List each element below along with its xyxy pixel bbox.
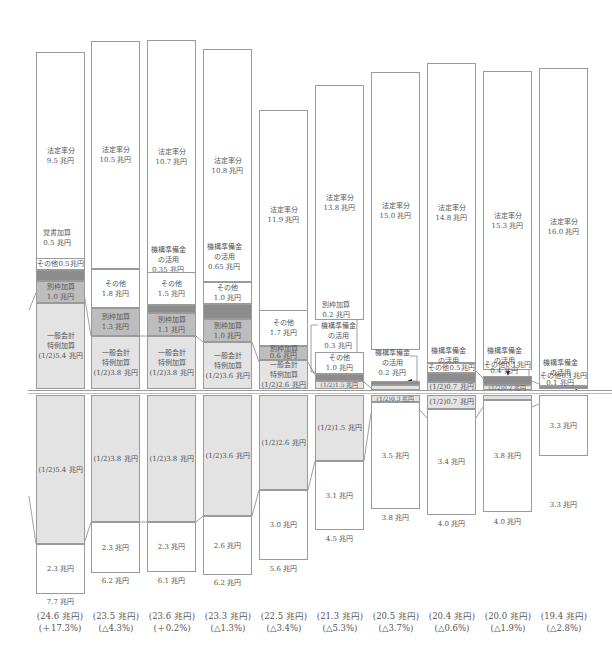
value: (1/2)3.8 兆円: [93, 454, 137, 464]
value: (1/2)3.6 兆円: [205, 371, 249, 381]
value: 3.3 兆円: [550, 421, 577, 431]
value: (1/2)0.3 兆円: [377, 396, 415, 402]
seg-low-half: (1/2)3.8 兆円: [91, 395, 140, 522]
seg-low-other: 3.1 兆円: [315, 461, 364, 530]
seg-houteiritsu: 法定率分 14.8 兆円: [427, 63, 476, 363]
label-kikou: 機構準備金 の活用 0.3 兆円: [318, 321, 358, 351]
low-total: 6.2 兆円: [91, 576, 140, 586]
label: の活用: [372, 358, 412, 368]
low-total: 6.1 兆円: [147, 576, 196, 586]
value: (1/2)3.8 兆円: [149, 368, 193, 378]
value: (1/2)3.8 兆円: [93, 368, 137, 378]
seg-betsuwaku: 別枠加算 1.0 兆円: [36, 281, 85, 303]
label: 特例加算: [47, 341, 75, 351]
seg-low-other: 3.8 兆円: [483, 400, 532, 512]
low-total: 5.6 兆円: [259, 564, 308, 574]
label: 機構準備金: [318, 321, 358, 331]
label-sonota: その他0.1兆円: [539, 371, 588, 381]
label: 法定率分: [438, 203, 466, 213]
seg-low-half: (1/2)0.3 兆円: [371, 395, 420, 402]
label: 法定率分: [550, 217, 578, 227]
seg-sonota: その他0.5兆円: [36, 258, 85, 270]
seg-ippan: (1/2)0.2 兆円: [483, 385, 532, 390]
label: 別枠加算: [316, 300, 356, 310]
seg-sonota: その他0.5兆円: [427, 363, 476, 373]
value: 2.3 兆円: [47, 564, 74, 574]
value: 0.65 兆円: [204, 262, 244, 272]
low-total: 4.0 兆円: [483, 517, 532, 527]
seg-kikou: [203, 304, 252, 319]
value: 3.5 兆円: [382, 451, 409, 461]
value: 16.0 兆円: [548, 227, 580, 237]
pct: (△2.8%): [528, 622, 600, 634]
seg-sonota: その他 1.0 兆円: [203, 282, 252, 304]
value: (1/2)5.4 兆円: [38, 351, 82, 361]
section-divider-2: [28, 393, 612, 394]
seg-houteiritsu: 法定率分 11.9 兆円: [259, 110, 308, 320]
value: 0.5 兆円: [40, 238, 74, 248]
seg-ippan: 一般会計 特例加算 (1/2)3.8 兆円: [147, 336, 196, 389]
seg-ippan: 一般会計 特例加算 (1/2)2.6 兆円: [259, 360, 308, 389]
value: (1/2)3.6 兆円: [205, 451, 249, 461]
value: 1.5 兆円: [158, 289, 185, 299]
value: (1/2)2.6 兆円: [261, 438, 305, 448]
seg-houteiritsu: 法定率分 10.7 兆円: [147, 40, 196, 273]
label: 法定率分: [214, 156, 242, 166]
seg-sonota: その他 1.7 兆円: [259, 310, 308, 346]
value: (1/2)2.6 兆円: [261, 380, 305, 390]
seg-sonota: その他 1.8 兆円: [91, 269, 140, 308]
label: 一般会計: [270, 360, 298, 370]
value: 2.3 兆円: [102, 543, 129, 553]
value: 13.8 兆円: [324, 203, 356, 213]
label: 法定率分: [270, 205, 298, 215]
value: その他0.5兆円: [428, 363, 474, 373]
label: 法定率分: [382, 201, 410, 211]
value: 15.0 兆円: [380, 211, 412, 221]
seg-betsuwaku: 別枠加算 0.6 兆円: [259, 346, 308, 360]
seg-ippan: 一般会計 特例加算 (1/2)5.4 兆円: [36, 303, 85, 389]
label: 機構準備金: [148, 245, 188, 255]
label: 機構準備金: [484, 346, 524, 356]
seg-low-other: 2.3 兆円: [91, 522, 140, 573]
label-betsuwaku: 別枠加算 0.2 兆円: [316, 300, 356, 320]
seg-houteiritsu: 法定率分 15.0 兆円: [371, 72, 420, 350]
seg-low-half: (1/2)3.6 兆円: [203, 395, 252, 516]
seg-betsuwaku: 別枠加算 1.3 兆円: [91, 308, 140, 336]
label-sonota: その他0.1兆円: [483, 360, 532, 370]
label: 機構準備金: [204, 242, 244, 252]
label: その他: [161, 279, 182, 289]
seg-low-other: 3.3 兆円: [539, 395, 588, 456]
label: 特例加算: [158, 358, 186, 368]
label: 一般会計: [47, 331, 75, 341]
low-total: 3.3 兆円: [539, 500, 588, 510]
label: 機構準備金: [372, 348, 412, 358]
label: の活用: [318, 331, 358, 341]
label: 覚書加算: [40, 228, 74, 238]
seg-betsuwaku: 別枠加算 1.1 兆円: [147, 313, 196, 336]
seg-low-half: (1/2)3.8 兆円: [147, 395, 196, 522]
seg-kikou-betsuwaku: [315, 374, 364, 381]
label: 特例加算: [214, 361, 242, 371]
label: 別枠加算: [102, 312, 130, 322]
value: 1.7 兆円: [270, 328, 297, 338]
value: 3.0 兆円: [270, 520, 297, 530]
seg-ippan: (1/2)0.7 兆円: [427, 382, 476, 391]
seg-houteiritsu: 法定率分 16.0 兆円: [539, 68, 588, 386]
low-total: 4.5 兆円: [315, 534, 364, 544]
seg-low-half: (1/2)2.6 兆円: [259, 395, 308, 490]
value: (1/2)0.7 兆円: [429, 397, 473, 407]
label: 法定率分: [47, 146, 75, 156]
value: 1.1 兆円: [158, 325, 185, 335]
label: 特例加算: [102, 358, 130, 368]
value: 11.9 兆円: [268, 215, 300, 225]
label: 機構準備金: [428, 346, 468, 356]
seg-ippan: [371, 385, 420, 390]
low-total: 6.2 兆円: [203, 578, 252, 588]
low-total: 7.7 兆円: [36, 597, 85, 607]
value: 10.8 兆円: [212, 166, 244, 176]
seg-low-other: 2.3 兆円: [36, 544, 85, 594]
label: 別枠加算: [158, 315, 186, 325]
seg-low-other: 3.4 兆円: [427, 409, 476, 515]
label: その他: [329, 353, 350, 363]
seg-low-half: (1/2)0.7 兆円: [427, 395, 476, 409]
